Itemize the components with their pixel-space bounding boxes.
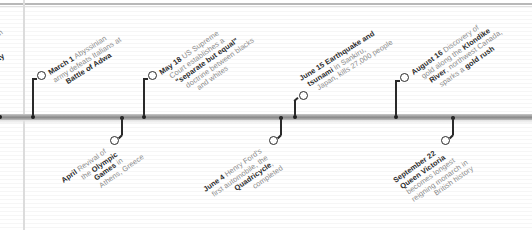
event-connector [121,117,123,135]
event-label: June 15 Earthquake and tsunami in Sankir… [298,24,395,98]
event-ring-icon [37,71,46,80]
event-connector-bend [294,97,299,101]
event-connector [143,78,145,116]
event-ring-icon [400,73,409,82]
event-connector-bend [143,78,148,80]
partial-label-left-2: ay [0,51,6,63]
event-connector [280,117,282,135]
event-connector [452,117,454,135]
event-connector-bend [395,80,400,82]
event-ring-icon [299,91,308,100]
event-connector [395,80,397,116]
event-label: September 22 Queen Victoria becomes long… [392,137,476,213]
event-label: May 18 US Supreme Court establishes a "s… [158,15,261,105]
event-connector [294,100,296,116]
partial-label-left-1: n [0,28,5,38]
event-ring-icon [148,71,157,80]
event-connector-bend [32,78,37,80]
event-ring-icon [269,136,278,145]
event-label: April Revival of the Olympic Games in At… [60,132,146,206]
top-border [0,3,532,5]
event-label: March 1 Abyssinian army defeats Italians… [47,28,127,92]
top-border-inner [0,6,532,7]
timeline-canvas: n ay March 1 Abyssinian army defeats Ita… [0,0,532,230]
event-label: June 4 Henry Ford's first automobile, th… [202,143,285,215]
event-connector [32,78,34,116]
event-label: August 16 Discovery of gold along the Kl… [410,14,509,98]
